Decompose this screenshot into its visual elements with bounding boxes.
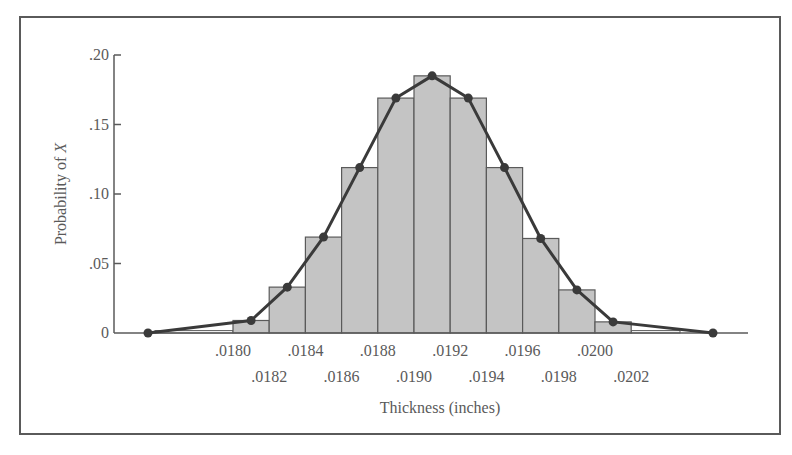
polygon-point-marker: [464, 94, 473, 103]
polygon-point-marker: [572, 285, 581, 294]
x-tick-label-lower: .0202: [613, 368, 649, 385]
histogram-bars: [155, 76, 680, 333]
x-tick-label-upper: .0196: [505, 342, 541, 359]
y-axis-ticks: 0.05.10.15.20: [89, 46, 121, 341]
y-tick-label: .15: [89, 116, 109, 133]
histogram-bar: [559, 290, 595, 333]
histogram-bar: [269, 287, 305, 333]
x-tick-label-upper: .0184: [287, 342, 323, 359]
x-tick-label-upper: .0192: [432, 342, 468, 359]
polygon-point-marker: [247, 316, 256, 325]
x-axis-tick-labels: .0180.0184.0188.0192.0196.0200.0182.0186…: [215, 342, 649, 385]
polygon-point-marker: [283, 283, 292, 292]
histogram-chart: 0.05.10.15.20 .0180.0184.0188.0192.0196.…: [0, 0, 792, 455]
x-tick-label-lower: .0198: [541, 368, 577, 385]
polygon-point-marker: [428, 71, 437, 80]
polygon-point-marker: [391, 94, 400, 103]
histogram-bar: [305, 237, 341, 333]
polygon-point-marker: [144, 329, 153, 338]
histogram-bar: [450, 98, 486, 333]
x-tick-label-lower: .0194: [468, 368, 504, 385]
y-tick-label: .05: [89, 255, 109, 272]
x-axis-title: Thickness (inches): [380, 399, 500, 417]
polygon-point-marker: [609, 317, 618, 326]
x-tick-label-lower: .0182: [251, 368, 287, 385]
y-tick-label: .10: [89, 185, 109, 202]
x-tick-label-lower: .0186: [324, 368, 360, 385]
x-tick-label-upper: .0200: [577, 342, 613, 359]
histogram-bar: [523, 238, 559, 333]
x-tick-label-upper: .0180: [215, 342, 251, 359]
histogram-bar: [414, 76, 450, 333]
histogram-bar: [378, 98, 414, 333]
polygon-point-marker: [536, 234, 545, 243]
polygon-point-marker: [319, 233, 328, 242]
x-tick-label-lower: .0190: [396, 368, 432, 385]
polygon-point-marker: [500, 163, 509, 172]
y-axis-title: Probability of X: [52, 142, 70, 245]
polygon-point-marker: [355, 163, 364, 172]
polygon-point-marker: [709, 329, 718, 338]
y-tick-label: .20: [89, 46, 109, 63]
x-tick-label-upper: .0188: [360, 342, 396, 359]
y-tick-label: 0: [101, 324, 109, 341]
